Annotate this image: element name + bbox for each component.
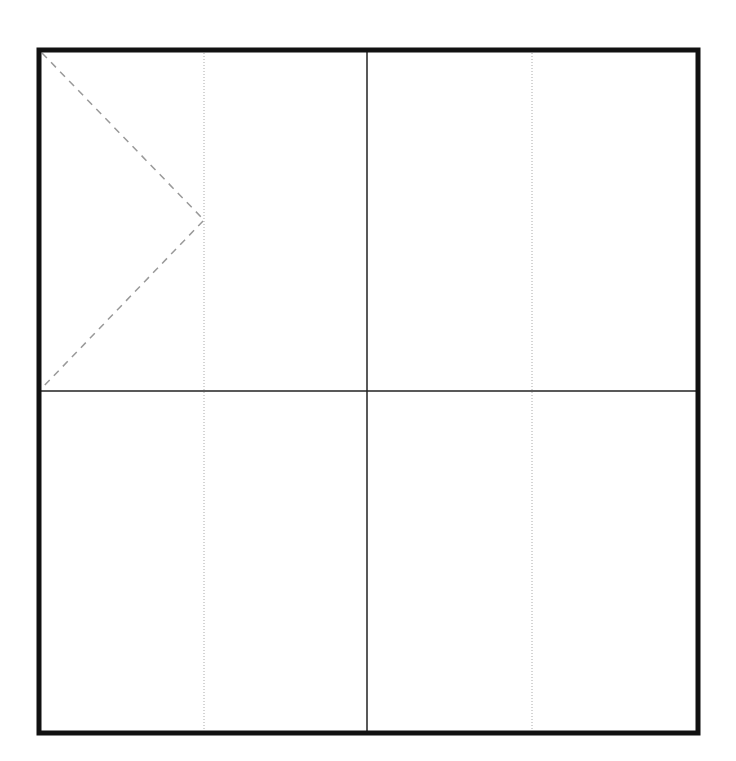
background bbox=[0, 0, 736, 761]
folding-diagram bbox=[0, 0, 736, 761]
